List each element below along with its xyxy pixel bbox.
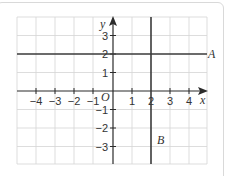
y-tick-label: 3 [102,30,108,42]
y-tick-label: 1 [102,67,108,79]
y-axis-label: y [99,17,106,31]
y-tick-label: −3 [95,141,108,153]
line-a-label: A [207,47,216,61]
line-b-label: B [157,133,165,147]
y-tick-label: −2 [95,122,108,134]
x-tick-label: 4 [186,95,192,107]
x-tick-label: 1 [129,95,135,107]
y-tick-label: −1 [95,104,108,116]
y-tick-label: 2 [102,48,108,60]
x-tick-label: 2 [148,95,154,107]
x-tick-label: −2 [68,95,81,107]
x-tick-label: −4 [30,95,43,107]
x-axis-label: x [199,93,206,107]
coordinate-grid: −4 −3 −2 −1 1 2 3 4 3 2 1 −1 −2 −3 y x O… [0,0,228,176]
x-tick-label: 3 [167,95,173,107]
x-tick-label: −3 [49,95,62,107]
origin-label: O [101,90,110,104]
